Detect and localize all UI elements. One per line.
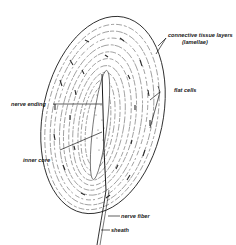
label-nerve-fiber: nerve fiber [121,213,150,219]
label-nerve-ending: nerve ending [11,101,46,107]
pacinian-corpuscle-diagram: connective tissue layers (lamellae) flat… [0,0,236,245]
label-flat-cells: flat cells [174,87,196,93]
label-inner-core: inner core [23,157,50,163]
label-lamellae: (lamellae) [182,39,208,45]
label-sheath: sheath [111,227,129,233]
label-connective-tissue-layers: connective tissue layers [168,32,233,38]
